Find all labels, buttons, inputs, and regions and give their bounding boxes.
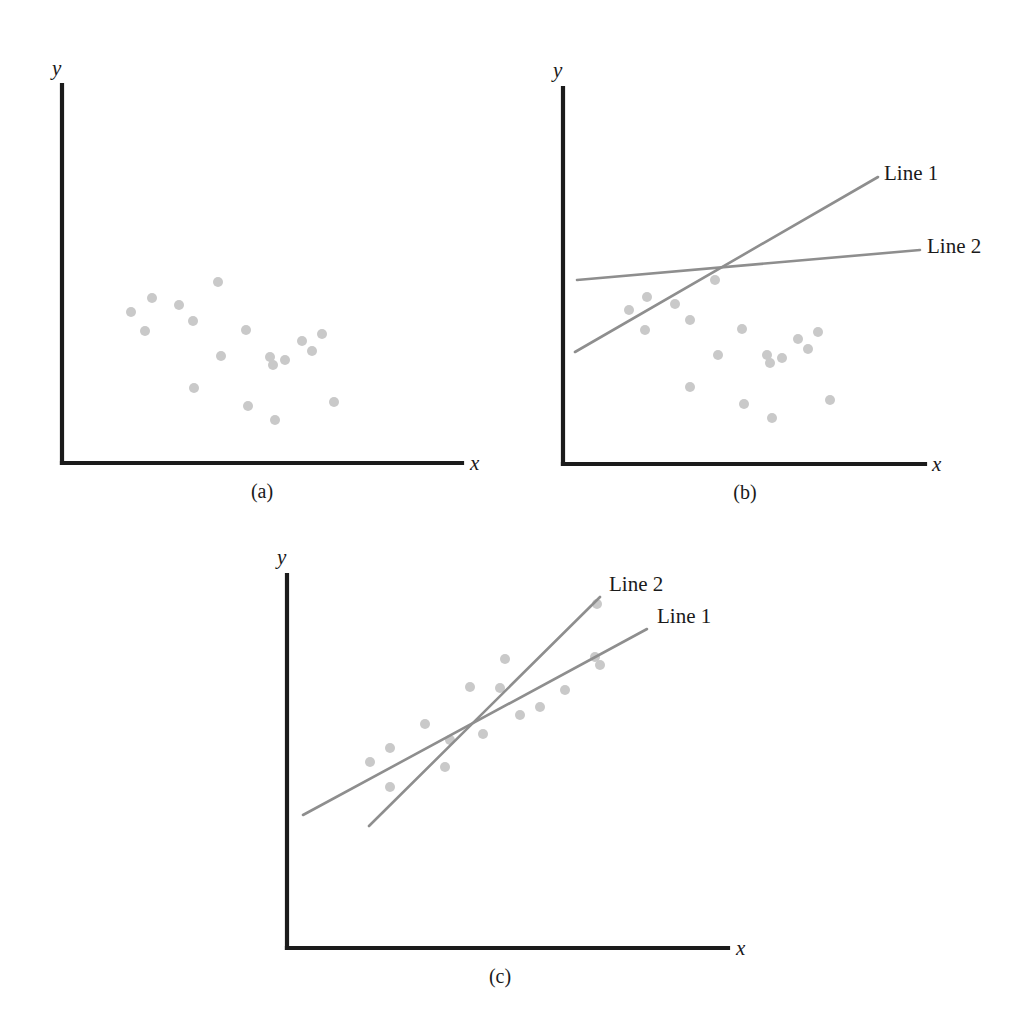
- scatter-point: [420, 719, 430, 729]
- scatter-point: [440, 762, 450, 772]
- panel-c-y-axis-label: y: [277, 547, 286, 568]
- scatter-point: [595, 660, 605, 670]
- scatter-point: [535, 702, 545, 712]
- panel-c-plot-area: [0, 0, 1023, 1034]
- scatter-point: [385, 743, 395, 753]
- panel-c-line-2-label: Line 2: [609, 574, 663, 595]
- fit-line-1: [303, 629, 647, 815]
- scatter-point: [465, 682, 475, 692]
- panel-c-caption: (c): [460, 966, 540, 986]
- panel-c: y x Line 2 Line 1 (c): [0, 0, 1023, 1034]
- scatter-point: [365, 757, 375, 767]
- panel-c-axes: [287, 575, 728, 948]
- panel-c-fit-lines: [303, 597, 647, 826]
- scatter-point: [515, 710, 525, 720]
- scatter-point: [500, 654, 510, 664]
- fit-line-2: [369, 597, 600, 826]
- scatter-point: [478, 729, 488, 739]
- regression-comparison-figure: y x (a): [0, 0, 1023, 1034]
- panel-c-line-1-label: Line 1: [657, 606, 711, 627]
- panel-c-x-axis-label: x: [736, 938, 745, 959]
- scatter-point: [560, 685, 570, 695]
- scatter-point: [385, 782, 395, 792]
